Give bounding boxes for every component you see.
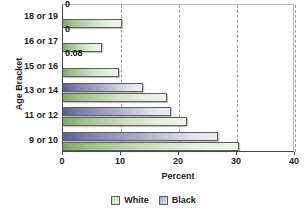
x-axis-tick-label: 20 (173, 156, 183, 166)
bar-group (63, 104, 293, 129)
x-axis-tick-mark (120, 152, 121, 155)
x-axis-tick-mark (178, 152, 179, 155)
x-axis-tick-label: 10 (115, 156, 125, 166)
bar-black (63, 107, 171, 116)
plot-inner: 000.08 (63, 5, 293, 152)
bar-group: 0.08 (63, 54, 293, 79)
chart-legend: WhiteBlack (0, 195, 307, 205)
plot-area: 000.08 (62, 4, 294, 152)
bar-white (63, 19, 122, 28)
y-axis-tick-16-or-17: 16 or 17 (24, 36, 58, 46)
x-axis-tick-mark (236, 152, 237, 155)
bar-group: 0 (63, 30, 293, 55)
x-axis-tick-label: 40 (289, 156, 299, 166)
bar-group (63, 128, 293, 153)
bar-black (63, 83, 143, 92)
x-axis-tick-mark (62, 152, 63, 155)
legend-swatch-icon (111, 196, 120, 205)
legend-label: White (124, 195, 149, 205)
gridline (295, 5, 296, 152)
x-axis-tick-label: 0 (59, 156, 64, 166)
x-axis-tick-mark (294, 152, 295, 155)
bar-group (63, 79, 293, 104)
y-axis-tick-13-or-14: 13 or 14 (24, 85, 58, 95)
x-axis-tick-label: 30 (231, 156, 241, 166)
bar-data-label: 0 (65, 24, 70, 34)
bar-white (63, 68, 119, 77)
bar-white (63, 142, 239, 151)
legend-swatch-icon (159, 196, 168, 205)
y-axis-tick-labels: 18 or 1916 or 1715 or 1613 or 1411 or 12… (0, 0, 58, 152)
legend-label: Black (172, 195, 196, 205)
legend-item-white[interactable]: White (111, 195, 149, 205)
legend-item-black[interactable]: Black (159, 195, 196, 205)
bar-white (63, 93, 167, 102)
y-axis-tick-9-or-10: 9 or 10 (29, 135, 58, 145)
bar-data-label: 0 (65, 0, 70, 9)
bar-black (63, 132, 218, 141)
bar-white (63, 117, 187, 126)
bar-data-label: 0.08 (65, 48, 83, 58)
bar-group: 0 (63, 5, 293, 30)
y-axis-tick-15-or-16: 15 or 16 (24, 61, 58, 71)
bar-chart: Age Bracket 18 or 1916 or 1715 or 1613 o… (0, 0, 307, 217)
y-axis-tick-11-or-12: 11 or 12 (24, 110, 58, 120)
y-axis-tick-18-or-19: 18 or 19 (24, 11, 58, 21)
x-axis-title: Percent (62, 171, 294, 181)
